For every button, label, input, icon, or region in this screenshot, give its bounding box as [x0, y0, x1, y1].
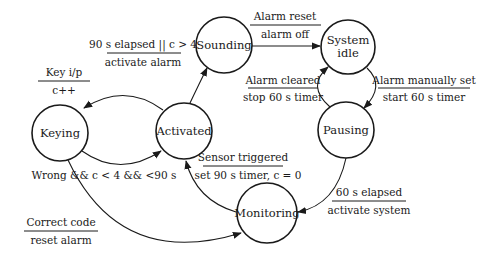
event-text: Alarm cleared	[244, 74, 320, 86]
label-activated-to-sounding: 90 s elapsed || c > 4 activate alarm	[89, 38, 197, 68]
state-keying: Keying	[32, 105, 88, 161]
state-pausing: Pausing	[318, 102, 374, 158]
action-text: set 90 s timer, c = 0	[195, 169, 302, 181]
action-text: start 60 s timer	[383, 91, 467, 103]
event-text: Sensor triggered	[198, 151, 289, 163]
state-label-pausing: Pausing	[323, 123, 369, 137]
state-sounding: Sounding	[196, 17, 252, 73]
state-diagram: Sounding System idle Pausing Activated K…	[0, 0, 496, 264]
state-label-system: System	[327, 33, 370, 47]
label-pausing-to-monitoring: 60 s elapsed activate system	[328, 186, 411, 216]
label-activated-to-keying: Key i/p c++	[38, 66, 90, 96]
action-text: alarm off	[261, 28, 311, 40]
event-text: Correct code	[26, 216, 95, 228]
edge-activated-to-keying	[84, 95, 163, 110]
label-pausing-to-idle: Alarm cleared stop 60 s timer	[243, 74, 324, 103]
action-text: activate system	[328, 204, 411, 216]
event-text: Alarm manually set	[371, 74, 476, 86]
label-monitoring-to-activated: Sensor triggered set 90 s timer, c = 0	[195, 151, 302, 181]
state-label-keying: Keying	[40, 126, 81, 140]
state-label-sounding: Sounding	[196, 38, 252, 52]
action-text: c++	[52, 84, 75, 96]
action-text: activate alarm	[105, 56, 182, 68]
state-monitoring: Monitoring	[234, 183, 300, 243]
event-text: 60 s elapsed	[336, 186, 403, 198]
label-sounding-to-idle: Alarm reset alarm off	[250, 10, 321, 40]
event-text: 90 s elapsed || c > 4	[89, 38, 197, 52]
state-label-activated: Activated	[155, 124, 212, 138]
label-keying-to-monitoring: Correct code reset alarm	[24, 216, 98, 246]
action-text: stop 60 s timer	[243, 91, 324, 103]
event-text: Alarm reset	[253, 10, 317, 22]
label-idle-to-pausing: Alarm manually set start 60 s timer	[371, 74, 476, 103]
state-system-idle: System idle	[321, 20, 375, 74]
edge-keying-to-activated	[82, 151, 161, 165]
state-label-idle: idle	[337, 46, 359, 60]
edge-activated-to-sounding	[190, 68, 207, 103]
action-text: reset alarm	[30, 234, 91, 246]
event-text: Key i/p	[46, 66, 83, 78]
label-keying-to-activated: Wrong && c < 4 && <90 s	[32, 169, 177, 181]
state-label-monitoring: Monitoring	[234, 206, 300, 220]
